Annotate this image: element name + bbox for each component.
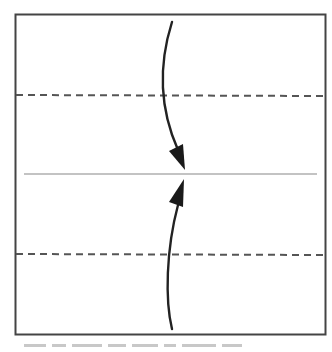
fold-diagram <box>0 0 332 352</box>
cutoff-caption <box>24 344 314 352</box>
